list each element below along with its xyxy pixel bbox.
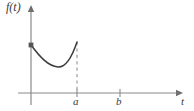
y-axis-label: f(t) (6, 1, 21, 13)
function-graph-figure: f(t) t a b (0, 0, 194, 111)
function-curve (31, 42, 77, 67)
x-tick-label-b: b (116, 96, 122, 107)
x-axis-label: t (181, 96, 184, 107)
plot-canvas (0, 0, 194, 111)
x-tick-label-a: a (73, 96, 79, 107)
start-point-marker (29, 43, 34, 48)
y-axis-arrowhead-icon (28, 5, 34, 12)
